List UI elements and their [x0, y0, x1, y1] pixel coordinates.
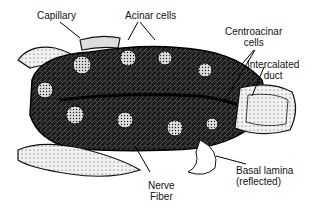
label-intercalated-line1: Intercalated [247, 59, 299, 70]
label-centroacinar-line2: cells [225, 37, 282, 48]
label-nerve-fiber: Nerve Fiber [148, 180, 175, 202]
label-centroacinar-cells: Centroacinar cells [225, 26, 282, 48]
label-nerve-line1: Nerve [148, 180, 175, 191]
label-nerve-line2: Fiber [148, 191, 175, 202]
label-basal-line2: (reflected) [236, 176, 293, 187]
label-capillary: Capillary [37, 10, 76, 21]
label-intercalated-duct: Intercalated duct [247, 59, 299, 81]
intercalated-duct [235, 85, 296, 134]
label-basal-line1: Basal lamina [236, 165, 293, 176]
label-centroacinar-line1: Centroacinar [225, 26, 282, 37]
label-intercalated-line2: duct [247, 70, 299, 81]
label-acinar-cells: Acinar cells [125, 10, 176, 21]
label-basal-lamina: Basal lamina (reflected) [236, 165, 293, 187]
